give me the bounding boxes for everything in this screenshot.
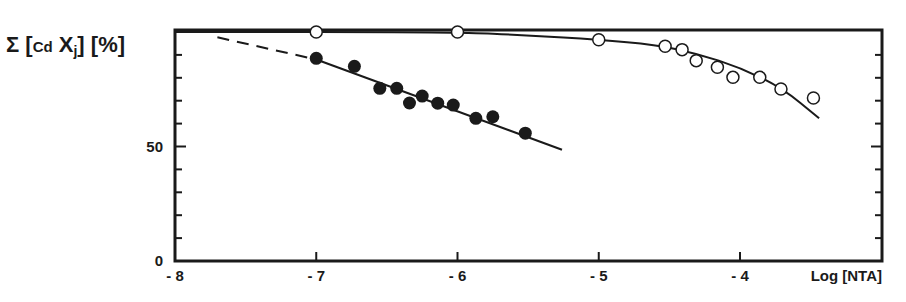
filled-circle-point [416,90,429,103]
x-axis-label: Log [NTA] [811,267,882,284]
filled-circle-point [373,82,386,95]
filled-circle-point [486,110,499,123]
open-circle-point [310,26,322,38]
open-circle-point [593,34,605,46]
open-circle-point [676,44,688,56]
open-circle-point [690,55,702,67]
y-tick-label: 0 [155,252,163,269]
x-tick-label: - 6 [449,267,467,284]
filled-circle-point [431,97,444,110]
filled-circle-point [390,82,403,95]
fit-curves [175,32,819,150]
open-series-fit-curve [175,32,819,118]
open-circle-point [659,40,671,52]
plot-frame [175,30,882,261]
open-circle-point [452,26,464,38]
filled-circle-point [447,99,460,112]
x-tick-label: - 4 [731,267,749,284]
filled-circle-point [519,127,532,140]
open-circle-point [775,83,787,95]
scatter-plot: - 8- 7- 6- 5- 4050Log [NTA] [0,0,906,302]
x-tick-label: - 7 [307,267,325,284]
filled-circle-point [469,112,482,125]
open-circle-point [727,71,739,83]
filled-series-extrapolation [217,37,316,59]
data-points [310,26,820,140]
y-tick-label: 50 [146,138,163,155]
filled-circle-point [348,60,361,73]
plot-border [175,30,882,261]
filled-circle-point [403,96,416,109]
x-tick-label: - 8 [166,267,184,284]
open-circle-point [711,61,723,73]
x-tick-label: - 5 [590,267,608,284]
open-circle-point [807,92,819,104]
filled-circle-point [310,52,323,65]
open-circle-point [754,71,766,83]
